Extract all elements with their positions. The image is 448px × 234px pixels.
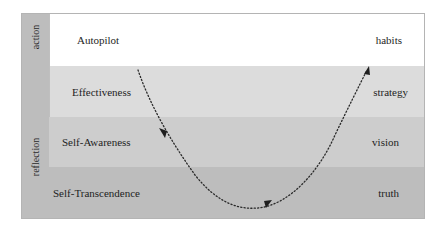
level-name-effectiveness: Effectiveness xyxy=(72,86,131,98)
level-outcome-habits: habits xyxy=(376,34,402,46)
level-outcome-vision: vision xyxy=(372,136,399,148)
level-band-effectiveness: Effectiveness strategy xyxy=(50,66,424,117)
level-band-self-transcendence: Self-Transcendence truth xyxy=(49,167,424,218)
reflection-label: reflection xyxy=(30,138,41,176)
diagram-frame: action reflection Autopilot habits Effec… xyxy=(22,14,424,218)
level-name-self-transcendence: Self-Transcendence xyxy=(53,187,140,199)
level-outcome-strategy: strategy xyxy=(373,86,408,98)
mode-sidebar: action reflection xyxy=(22,14,49,218)
level-band-autopilot: Autopilot habits xyxy=(50,14,424,66)
action-label: action xyxy=(30,25,41,49)
level-outcome-truth: truth xyxy=(378,187,399,199)
level-band-self-awareness: Self-Awareness vision xyxy=(49,117,424,167)
level-name-self-awareness: Self-Awareness xyxy=(62,136,131,148)
level-name-autopilot: Autopilot xyxy=(77,34,119,46)
